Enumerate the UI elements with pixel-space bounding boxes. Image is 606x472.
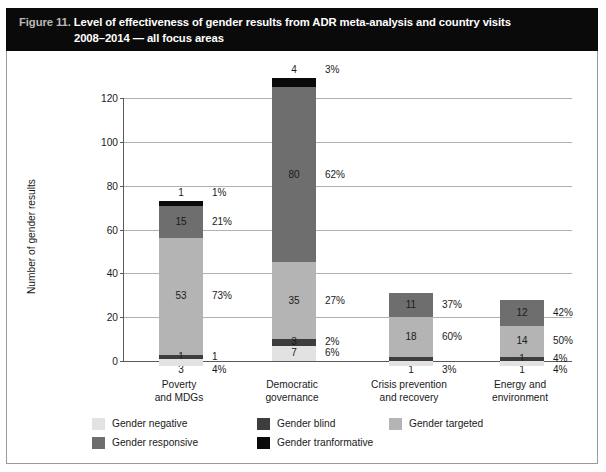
- segment-value-label: 12: [500, 308, 544, 318]
- bar-group[interactable]: 11%34%Povertyand MDGs1521%5373%11: [159, 98, 203, 361]
- segment-value-label-below: 3: [159, 364, 203, 375]
- legend-swatch-icon: [257, 437, 270, 449]
- y-axis-tick-mark: [120, 230, 124, 231]
- legend-swatch-icon: [92, 437, 105, 449]
- bar-segment[interactable]: [500, 361, 544, 366]
- bar-segment[interactable]: 3527%: [272, 262, 316, 339]
- stacked-bar[interactable]: 1242%1450%14%: [500, 300, 544, 361]
- y-axis-tick-mark: [120, 361, 124, 362]
- y-axis-tick-label: 20: [107, 312, 118, 323]
- segment-percent-label: 50%: [553, 336, 573, 346]
- stacked-bar[interactable]: 8062%3527%32%76%: [272, 78, 316, 361]
- plot-wrapper: Number of gender results 020406080100120…: [6, 51, 598, 464]
- segment-percent-label-below: 4%: [212, 364, 226, 375]
- segment-value-label: 15: [159, 217, 203, 227]
- segment-value-label: 14: [500, 336, 544, 346]
- legend-swatch-icon: [92, 418, 105, 430]
- y-axis-tick-mark: [120, 317, 124, 318]
- bar-group[interactable]: 43%Democraticgovernance8062%3527%32%76%: [272, 98, 316, 361]
- y-axis-tick-label: 100: [101, 136, 118, 147]
- legend-item[interactable]: Gender negative: [92, 414, 187, 433]
- legend-swatch-icon: [257, 418, 270, 430]
- figure-title-band: Figure 11. Level of effectiveness of gen…: [6, 8, 598, 51]
- segment-percent-label-above: 1%: [212, 187, 226, 198]
- bar-segment[interactable]: 1860%: [389, 317, 433, 356]
- segment-percent-label-below: 4%: [553, 364, 567, 375]
- bar-segment[interactable]: 5373%: [159, 238, 203, 354]
- bar-segment[interactable]: [389, 361, 433, 366]
- bar-group[interactable]: 14%Energy andenvironment1242%1450%14%: [500, 98, 544, 361]
- legend-row: Gender responsiveGender tranformative: [92, 433, 512, 452]
- x-axis-category-label: Democraticgovernance: [226, 379, 358, 404]
- segment-value-label: 7: [272, 348, 316, 358]
- y-axis-tick-label: 80: [107, 180, 118, 191]
- segment-percent-label: 37%: [442, 300, 462, 310]
- bar-segment[interactable]: 1521%: [159, 206, 203, 239]
- figure-title-line-1: Figure 11. Level of effectiveness of gen…: [19, 14, 586, 30]
- bar-segment[interactable]: [159, 359, 203, 366]
- figure-title-line-2: 2008–2014 — all focus areas: [19, 30, 586, 46]
- figure-title-text-1: Level of effectiveness of gender results…: [74, 16, 511, 28]
- legend-row: Gender negativeGender blindGender target…: [92, 414, 512, 433]
- segment-percent-label: 73%: [212, 291, 232, 301]
- legend-label: Gender blind: [277, 418, 335, 429]
- segment-percent-label: 27%: [325, 296, 345, 306]
- segment-percent-label: 2%: [325, 337, 339, 347]
- segment-value-label: 53: [159, 291, 203, 301]
- figure-number: Figure 11.: [19, 16, 71, 28]
- legend-swatch-icon: [389, 418, 402, 430]
- legend-item[interactable]: Gender blind: [257, 414, 335, 433]
- segment-value-label-below: 1: [389, 364, 433, 375]
- y-axis-tick-mark: [120, 142, 124, 143]
- segment-percent-label: 1: [212, 352, 218, 362]
- bar-segment[interactable]: 8062%: [272, 87, 316, 262]
- segment-percent-label: 6%: [325, 348, 339, 358]
- chart-legend: Gender negativeGender blindGender target…: [92, 414, 512, 452]
- bar-segment[interactable]: 76%: [272, 346, 316, 361]
- y-axis-tick-mark: [120, 98, 124, 99]
- y-axis-tick-label: 60: [107, 224, 118, 235]
- stacked-bar[interactable]: 1521%5373%11: [159, 201, 203, 361]
- bar-segment[interactable]: 1137%: [389, 293, 433, 317]
- legend-label: Gender responsive: [112, 437, 198, 448]
- x-axis-category-line: Democratic: [226, 379, 358, 392]
- bar-segment[interactable]: 1242%: [500, 300, 544, 326]
- legend-item[interactable]: Gender targeted: [389, 414, 483, 433]
- x-axis-category-line: Energy and: [454, 379, 586, 392]
- segment-value-label-above: 1: [159, 187, 203, 198]
- x-axis-category-label: Energy andenvironment: [454, 379, 586, 404]
- x-axis-category-line: governance: [226, 392, 358, 405]
- legend-item[interactable]: Gender tranformative: [257, 433, 373, 452]
- segment-value-label-above: 4: [272, 64, 316, 75]
- legend-label: Gender negative: [112, 418, 187, 429]
- y-axis-tick-label: 0: [112, 356, 118, 367]
- segment-percent-label-above: 3%: [325, 64, 339, 75]
- segment-percent-label: 4%: [553, 354, 567, 364]
- y-axis-tick-mark: [120, 273, 124, 274]
- segment-percent-label-below: 3%: [442, 364, 456, 375]
- legend-label: Gender tranformative: [277, 437, 373, 448]
- segment-value-label: 35: [272, 296, 316, 306]
- segment-value-label: 18: [389, 332, 433, 342]
- y-axis-tick-label: 40: [107, 268, 118, 279]
- plot-area: 020406080100120 11%34%Povertyand MDGs152…: [124, 98, 572, 361]
- segment-percent-label: 42%: [553, 308, 573, 318]
- figure-container: Figure 11. Level of effectiveness of gen…: [0, 0, 606, 472]
- segment-value-label-below: 1: [500, 364, 544, 375]
- y-axis-tick-mark: [120, 186, 124, 187]
- stacked-bar[interactable]: 1137%1860%: [389, 293, 433, 361]
- segment-value-label: 80: [272, 170, 316, 180]
- segment-percent-label: 60%: [442, 332, 462, 342]
- segment-value-label: 11: [389, 300, 433, 310]
- bar-group[interactable]: 13%Crisis preventionand recovery1137%186…: [389, 98, 433, 361]
- segment-percent-label: 62%: [325, 170, 345, 180]
- y-axis-title: Number of gender results: [26, 137, 37, 337]
- legend-label: Gender targeted: [409, 418, 483, 429]
- bar-segment[interactable]: [272, 78, 316, 87]
- segment-percent-label: 21%: [212, 217, 232, 227]
- y-axis-tick-label: 120: [101, 93, 118, 104]
- x-axis-category-line: environment: [454, 392, 586, 405]
- legend-item[interactable]: Gender responsive: [92, 433, 198, 452]
